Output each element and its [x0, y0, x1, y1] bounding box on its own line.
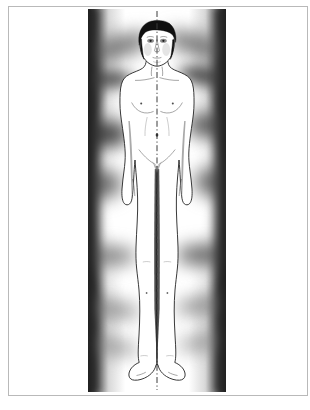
pupil-left — [150, 40, 152, 42]
pupil-right — [162, 40, 164, 42]
cheek-shadow-left — [144, 43, 152, 56]
patella-left — [146, 292, 148, 294]
nipple-left — [140, 103, 142, 105]
cheek-shadow-right — [162, 43, 170, 56]
page-root: Anatomical body scan plate body-scan-pan… — [0, 0, 310, 410]
human-figure-drawing — [88, 9, 226, 392]
nipple-right — [172, 103, 174, 105]
body-scan-panel — [88, 9, 226, 392]
patella-right — [167, 292, 169, 294]
